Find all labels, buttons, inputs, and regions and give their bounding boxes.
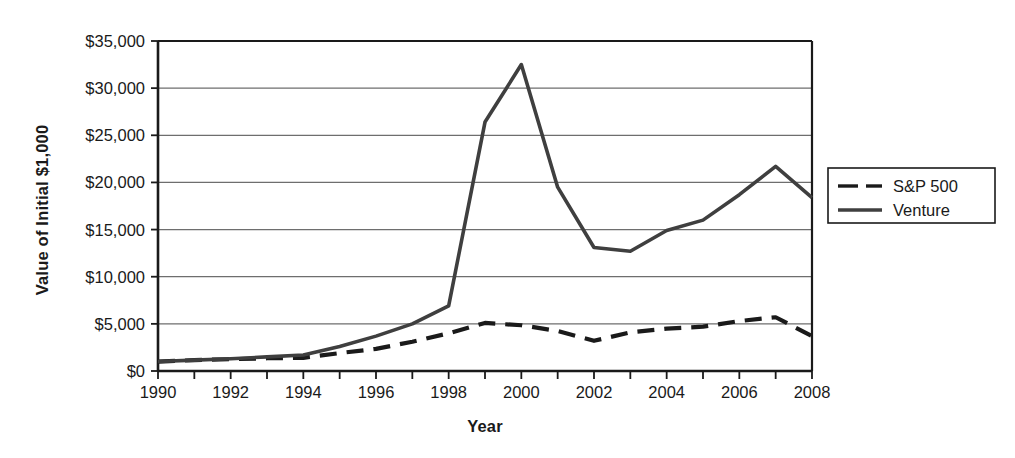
- y-axis-title: Value of Initial $1,000: [33, 125, 51, 296]
- y-tick-label: $0: [127, 362, 145, 380]
- x-axis-title: Year: [467, 417, 503, 435]
- x-tick-label: 1990: [140, 383, 177, 401]
- y-tick-label: $15,000: [85, 221, 145, 239]
- y-tick-label: $30,000: [85, 79, 145, 97]
- line-chart: $0$5,000$10,000$15,000$20,000$25,000$30,…: [0, 0, 1015, 458]
- x-tick-label: 2000: [503, 383, 540, 401]
- legend-label-venture: Venture: [893, 201, 950, 219]
- y-tick-label: $5,000: [95, 315, 145, 333]
- x-tick-label: 1996: [358, 383, 395, 401]
- chart-legend[interactable]: S&P 500 Venture: [828, 168, 995, 223]
- x-tick-label: 2002: [576, 383, 613, 401]
- x-tick-label: 1994: [285, 383, 322, 401]
- y-tick-label: $35,000: [85, 32, 145, 50]
- chart-container: $0$5,000$10,000$15,000$20,000$25,000$30,…: [0, 0, 1015, 458]
- x-tick-label: 1998: [430, 383, 467, 401]
- legend-label-sp500: S&P 500: [893, 177, 958, 195]
- x-tick-label: 2006: [721, 383, 758, 401]
- y-tick-label: $25,000: [85, 126, 145, 144]
- x-tick-label: 2004: [648, 383, 685, 401]
- y-tick-label: $20,000: [85, 173, 145, 191]
- y-tick-label: $10,000: [85, 268, 145, 286]
- x-tick-label: 2008: [794, 383, 831, 401]
- x-tick-label: 1992: [212, 383, 249, 401]
